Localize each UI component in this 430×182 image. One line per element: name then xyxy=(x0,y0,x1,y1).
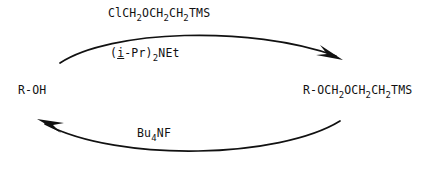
base-reagent-label: (i-Pr)2NEt xyxy=(110,48,180,60)
reaction-scheme: ClCH2OCH2CH2TMS (i-Pr)2NEt R-OH R-OCH2OC… xyxy=(0,0,430,182)
protection-arrow-head xyxy=(316,45,343,60)
deprotection-arrow-curve xyxy=(45,121,340,151)
bottom-reagent-label: Bu4NF xyxy=(137,128,171,140)
substrate-label: R-OH xyxy=(18,85,47,97)
protection-arrow-curve xyxy=(60,35,336,63)
protection-arrow xyxy=(60,35,343,63)
product-label: R-OCH2OCH2CH2TMS xyxy=(303,85,412,97)
top-reagent-label: ClCH2OCH2CH2TMS xyxy=(108,8,210,20)
deprotection-arrow xyxy=(37,119,340,151)
